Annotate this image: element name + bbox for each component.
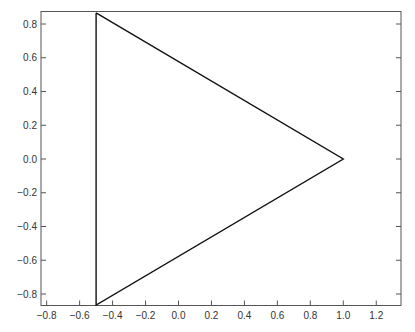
x-tick-label: 0.2 xyxy=(205,310,219,321)
x-tick-label: 0.8 xyxy=(303,310,317,321)
x-tick-label: −0.8 xyxy=(37,310,57,321)
y-tick-label: −0.8 xyxy=(17,289,37,300)
x-tick-label: 1.2 xyxy=(369,310,383,321)
y-tick-label: −0.4 xyxy=(17,221,37,232)
x-tick-label: −0.2 xyxy=(136,310,156,321)
x-tick-label: −0.4 xyxy=(103,310,123,321)
y-tick-label: 0.8 xyxy=(23,19,37,30)
x-tick-label: 0.0 xyxy=(172,310,186,321)
x-tick-label: 0.6 xyxy=(270,310,284,321)
x-tick-label: −0.6 xyxy=(70,310,90,321)
chart: −0.8−0.6−0.4−0.20.00.20.40.60.81.01.2 −0… xyxy=(0,0,415,332)
x-tick-label: 0.4 xyxy=(237,310,251,321)
plot-area xyxy=(96,13,343,305)
y-tick-label: −0.2 xyxy=(17,187,37,198)
y-tick-label: 0.2 xyxy=(23,120,37,131)
x-tick-label: 1.0 xyxy=(336,310,350,321)
y-tick-label: −0.6 xyxy=(17,255,37,266)
y-tick-label: 0.6 xyxy=(23,52,37,63)
plot-frame xyxy=(41,12,401,306)
y-tick-label: 0.0 xyxy=(23,154,37,165)
x-axis: −0.8−0.6−0.4−0.20.00.20.40.60.81.01.2 xyxy=(37,301,384,321)
triangle-series xyxy=(96,13,343,305)
y-tick-label: 0.4 xyxy=(23,86,37,97)
